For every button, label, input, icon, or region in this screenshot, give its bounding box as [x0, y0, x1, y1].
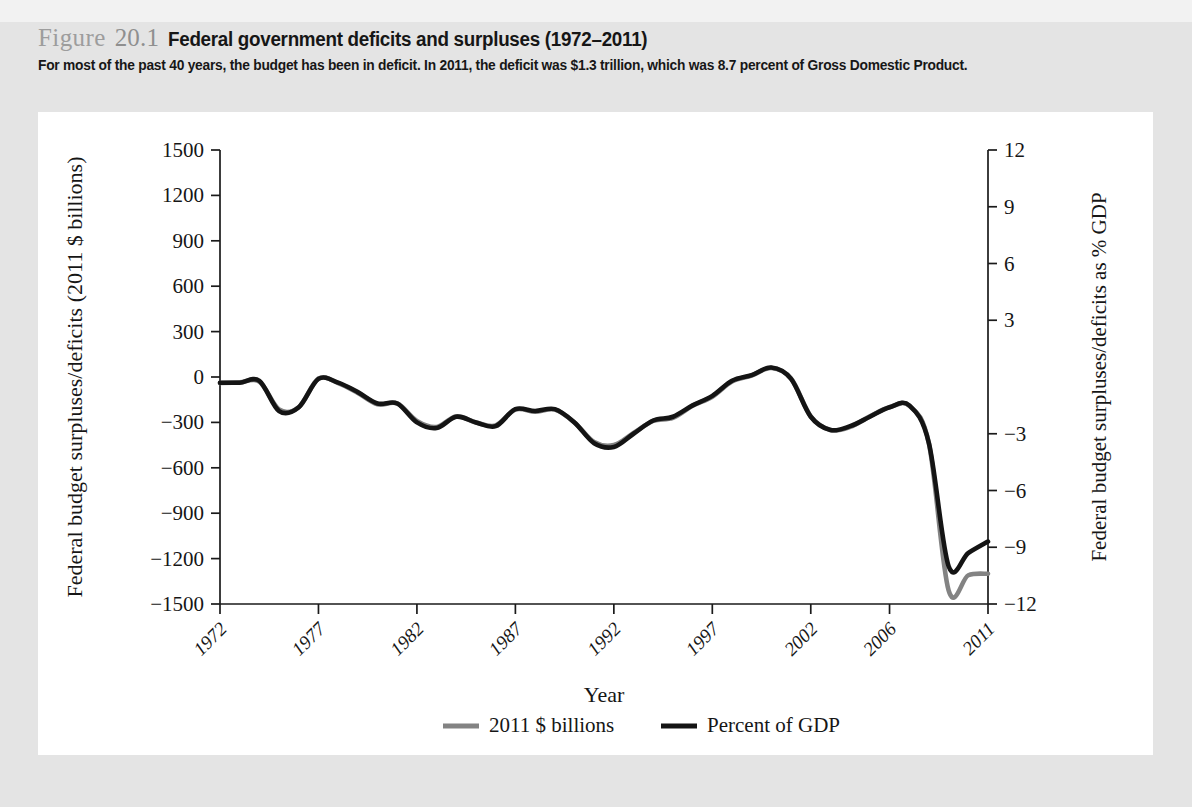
legend-label-0: 2011 $ billions: [489, 713, 614, 737]
x-axis-title: Year: [584, 682, 625, 707]
y-tick-label-right: −9: [1004, 535, 1026, 559]
x-tick-label: 1987: [484, 617, 527, 660]
y-tick-label-left: 600: [173, 274, 205, 298]
y-tick-label-right: 9: [1004, 195, 1015, 219]
y-tick-label-left: −600: [161, 456, 204, 480]
x-tick-label: 1977: [288, 617, 331, 660]
y-tick-label-left: 900: [173, 229, 205, 253]
x-tick-label: 1982: [386, 618, 428, 660]
x-tick-label: 1972: [189, 618, 231, 660]
legend-label-1: Percent of GDP: [707, 713, 840, 737]
y-axis-title-right: Federal budget surpluses/deficits as % G…: [1087, 192, 1111, 561]
chart-card: 150012009006003000−300−600−900−1200−1500…: [38, 112, 1153, 755]
x-tick-label: 2002: [780, 618, 822, 660]
y-tick-label-left: −1200: [150, 547, 204, 571]
x-tick-label: 2011: [958, 618, 999, 659]
deficit-surplus-line-chart: 150012009006003000−300−600−900−1200−1500…: [38, 112, 1153, 755]
y-tick-label-right: −6: [1004, 479, 1026, 503]
figure-title-line: Figure 20.1 Federal government deficits …: [38, 24, 1158, 52]
chart-area: 150012009006003000−300−600−900−1200−1500…: [38, 112, 1153, 755]
y-tick-label-left: −1500: [150, 592, 204, 616]
x-tick-label: 1992: [583, 618, 625, 660]
series-line-percent-of-gdp: [220, 367, 988, 572]
y-tick-label-left: −300: [161, 410, 204, 434]
series-line-2011-billions: [220, 368, 988, 598]
y-tick-label-right: −12: [1004, 592, 1037, 616]
figure-number: 20.1: [115, 24, 160, 52]
y-tick-label-left: 1500: [162, 138, 204, 162]
y-tick-label-left: 1200: [162, 183, 204, 207]
y-tick-label-left: −900: [161, 501, 204, 525]
y-axis-title-left: Federal budget surpluses/deficits (2011 …: [62, 157, 87, 598]
y-tick-label-right: 12: [1004, 138, 1025, 162]
x-tick-label: 1997: [681, 617, 724, 660]
y-tick-label-left: 0: [194, 365, 205, 389]
x-tick-label: 2006: [859, 618, 901, 660]
top-band: [0, 0, 1192, 22]
figure-title: Federal government deficits and surpluse…: [168, 28, 647, 51]
y-tick-label-right: 6: [1004, 252, 1015, 276]
y-tick-label-left: 300: [173, 320, 205, 344]
figure-label: Figure: [38, 24, 106, 52]
figure-subtitle: For most of the past 40 years, the budge…: [38, 57, 1102, 73]
figure-header: Figure 20.1 Federal government deficits …: [38, 24, 1158, 96]
y-tick-label-right: −3: [1004, 422, 1026, 446]
y-tick-label-right: 3: [1004, 308, 1015, 332]
